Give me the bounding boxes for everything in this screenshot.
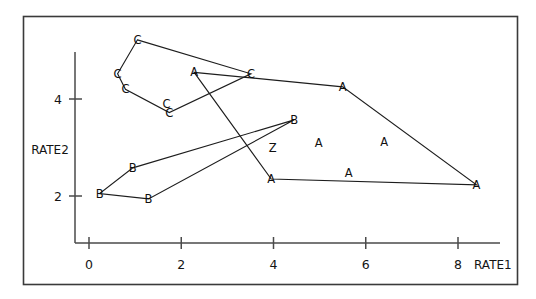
data-point-c: C	[121, 82, 129, 96]
x-axis-title: RATE1	[474, 258, 512, 272]
x-tick-label: 0	[85, 257, 93, 272]
data-point-a: A	[190, 65, 198, 79]
data-point-b: B	[290, 113, 298, 127]
data-point-a: A	[315, 136, 323, 150]
data-point-a: A	[267, 172, 275, 186]
y-axis-title: RATE2	[31, 143, 69, 157]
data-point-z: Z	[269, 141, 277, 155]
scatter-plot-figure: 02468 24 CCCCCCAAAAAAABBBBZ RATE2 RATE1	[0, 0, 536, 299]
data-point-a: A	[339, 80, 347, 94]
data-point-b: B	[145, 192, 153, 206]
hull-outline-a	[194, 72, 476, 185]
plot-canvas: 02468 24 CCCCCCAAAAAAABBBBZ RATE2 RATE1	[0, 0, 536, 299]
data-point-c: C	[114, 67, 122, 81]
cluster-hull-outlines	[100, 40, 477, 199]
x-tick-label: 8	[454, 257, 462, 272]
data-point-c: C	[165, 106, 173, 120]
data-point-a: A	[345, 166, 353, 180]
data-point-c: C	[133, 33, 141, 47]
y-tick-label: 2	[54, 189, 62, 204]
data-point-a: A	[473, 178, 481, 192]
data-point-b: B	[96, 187, 104, 201]
x-tick-label: 4	[270, 257, 278, 272]
x-axis-ticks: 02468	[85, 237, 462, 272]
data-point-c: C	[247, 67, 255, 81]
x-tick-label: 6	[362, 257, 370, 272]
hull-outline-b	[100, 120, 295, 199]
data-point-a: A	[380, 135, 388, 149]
data-point-b: B	[129, 161, 137, 175]
x-tick-label: 2	[177, 257, 185, 272]
y-tick-label: 4	[54, 92, 62, 107]
